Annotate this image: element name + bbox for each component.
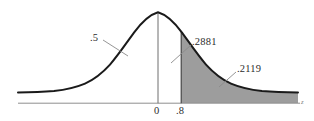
annotation-half: .5	[90, 33, 98, 44]
x-tick-label-zero: 0	[154, 106, 159, 117]
x-axis-label-z: z	[301, 99, 304, 106]
x-tick-label-point-eight: .8	[176, 106, 184, 117]
annotation-2119: .2119	[237, 64, 261, 75]
normal-distribution-figure: .5 .2881 .2119 0 .8 z	[0, 0, 314, 121]
normal-curve-svg	[0, 0, 314, 121]
leader-line-half	[103, 40, 128, 56]
annotation-2881: .2881	[192, 37, 217, 48]
